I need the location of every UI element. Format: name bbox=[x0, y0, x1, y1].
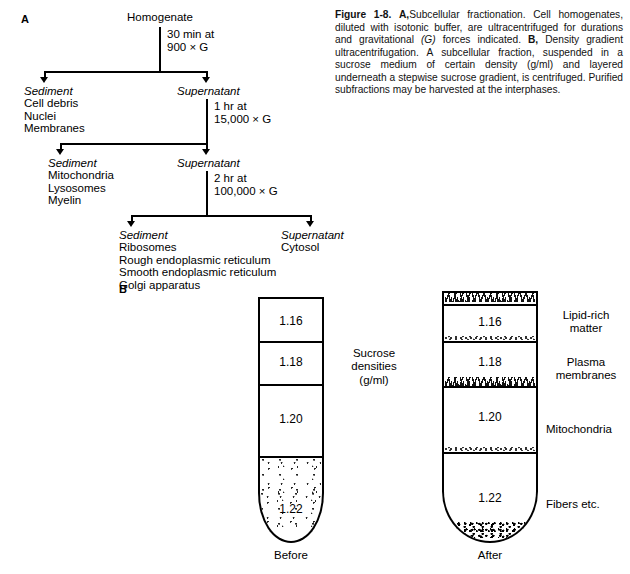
fraction-label-line-2: matter bbox=[546, 322, 626, 335]
figure-caption: Figure 1-8. A,Subcellular fractionation.… bbox=[335, 9, 623, 97]
sucrose-note-line-3: (g/ml) bbox=[336, 374, 412, 387]
after-density-1: 1.16 bbox=[442, 315, 538, 329]
fraction-label-plasma-membranes: Plasma membranes bbox=[546, 356, 626, 383]
after-divider-1 bbox=[442, 341, 538, 343]
fraction-4-item: Ribosomes bbox=[119, 241, 276, 254]
fraction-4-heading: Sediment bbox=[119, 229, 168, 241]
fraction-label-mitochondria: Mitochondria bbox=[546, 423, 630, 436]
figure-canvas: A Homogenate 30 min at 900 × G Sediment … bbox=[0, 0, 630, 574]
flow-split-1 bbox=[44, 71, 207, 73]
arrow-down-icon bbox=[40, 77, 48, 83]
fraction-2-heading: Sediment bbox=[48, 157, 97, 169]
before-density-2: 1.18 bbox=[258, 355, 324, 369]
fraction-2-item: Mitochondria bbox=[48, 169, 114, 182]
fraction-2-contents: Mitochondria Lysosomes Myelin bbox=[48, 169, 114, 207]
caption-part-a-text-2: forces indicated. bbox=[436, 34, 528, 45]
caption-figure-number: Figure 1-8. bbox=[335, 9, 391, 20]
before-density-1: 1.16 bbox=[258, 314, 324, 328]
before-tube-bottom bbox=[258, 491, 324, 543]
fraction-label-line-1: Plasma bbox=[546, 356, 626, 369]
spin-3-duration: 2 hr at bbox=[214, 172, 247, 185]
before-divider-3 bbox=[258, 456, 324, 458]
fraction-4-contents: Ribosomes Rough endoplasmic reticulum Sm… bbox=[119, 241, 276, 291]
caption-part-a-italic: (G) bbox=[421, 34, 436, 45]
arrow-down-icon bbox=[56, 149, 64, 155]
panel-b-letter: B bbox=[119, 283, 127, 295]
after-density-2: 1.18 bbox=[442, 355, 538, 369]
fraction-5-contents: Cytosol bbox=[281, 241, 319, 254]
arrow-down-icon bbox=[202, 149, 210, 155]
after-interphase-band-top bbox=[445, 293, 535, 302]
spin-2-force: 15,000 × G bbox=[214, 113, 271, 126]
fraction-5-item: Cytosol bbox=[281, 241, 319, 254]
fraction-2-item: Lysosomes bbox=[48, 182, 114, 195]
fraction-label-fibers-etc: Fibers etc. bbox=[546, 498, 630, 511]
fraction-0-heading: Sediment bbox=[24, 85, 73, 97]
fraction-0-item: Cell debris bbox=[24, 97, 85, 110]
sucrose-note-line-2: densities bbox=[336, 360, 412, 373]
spin-2-duration: 1 hr at bbox=[214, 100, 247, 113]
fraction-0-item: Nuclei bbox=[24, 110, 85, 123]
flow-stem-1 bbox=[159, 27, 161, 72]
fraction-1-heading: Supernatant bbox=[177, 85, 240, 97]
spin-1-force: 900 × G bbox=[167, 41, 208, 54]
after-tube: 1.16 1.18 1.20 1.22 bbox=[442, 291, 538, 543]
fraction-0-contents: Cell debris Nuclei Membranes bbox=[24, 97, 85, 135]
fraction-3-heading: Supernatant bbox=[177, 157, 240, 169]
arrow-down-icon bbox=[127, 221, 135, 227]
fraction-0-item: Membranes bbox=[24, 122, 85, 135]
fraction-4-item: Smooth endoplasmic reticulum bbox=[119, 266, 276, 279]
before-tube: 1.16 1.18 1.20 1.22 bbox=[258, 297, 324, 543]
before-tube-caption: Before bbox=[258, 549, 324, 561]
flow-split-2 bbox=[60, 143, 207, 145]
fraction-label-line-2: membranes bbox=[546, 369, 626, 382]
caption-part-a-label: A, bbox=[399, 9, 409, 20]
sucrose-note-line-1: Sucrose bbox=[336, 347, 412, 360]
after-divider-2 bbox=[442, 386, 538, 388]
fraction-4-item: Golgi apparatus bbox=[119, 279, 276, 292]
after-tube-caption: After bbox=[442, 549, 538, 561]
after-density-3: 1.20 bbox=[442, 410, 538, 424]
after-divider-top bbox=[442, 304, 538, 306]
before-divider-1 bbox=[258, 341, 324, 343]
arrow-down-icon bbox=[202, 77, 210, 83]
after-density-4: 1.22 bbox=[442, 491, 538, 505]
fraction-label-line-1: Lipid-rich bbox=[546, 309, 626, 322]
spin-1-duration: 30 min at bbox=[167, 28, 214, 41]
after-interphase-band-2 bbox=[445, 377, 535, 386]
before-layer-1-22-speckle bbox=[261, 457, 321, 493]
fraction-label-line-1: Mitochondria bbox=[546, 423, 630, 436]
caption-part-b-label: B, bbox=[528, 34, 538, 45]
before-density-3: 1.20 bbox=[258, 412, 324, 426]
flow-split-3 bbox=[131, 215, 311, 217]
fraction-2-item: Myelin bbox=[48, 194, 114, 207]
fraction-label-line-1: Fibers etc. bbox=[546, 498, 630, 511]
after-pellet-speckle bbox=[450, 522, 534, 538]
fraction-5-heading: Supernatant bbox=[281, 229, 344, 241]
before-density-4: 1.22 bbox=[258, 502, 324, 516]
flow-stem-2 bbox=[206, 99, 208, 144]
panel-a-letter: A bbox=[21, 13, 29, 25]
sucrose-densities-note: Sucrose densities (g/ml) bbox=[336, 347, 412, 387]
fraction-label-lipid-rich-matter: Lipid-rich matter bbox=[546, 309, 626, 336]
before-divider-2 bbox=[258, 384, 324, 386]
flow-node-homogenate: Homogenate bbox=[80, 11, 240, 23]
flow-stem-3 bbox=[206, 171, 208, 216]
arrow-down-icon bbox=[306, 221, 314, 227]
fraction-4-item: Rough endoplasmic reticulum bbox=[119, 254, 276, 267]
after-divider-3 bbox=[442, 452, 538, 454]
spin-3-force: 100,000 × G bbox=[214, 185, 278, 198]
